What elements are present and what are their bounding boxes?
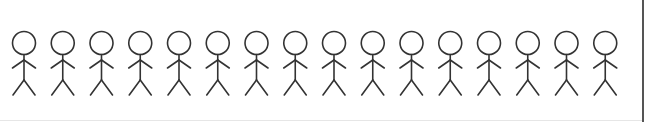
right-arm (373, 60, 385, 68)
head (516, 32, 539, 55)
stick-figure-icon (439, 32, 462, 96)
left-arm (168, 60, 180, 68)
right-arm (412, 60, 424, 68)
right-arm (450, 60, 462, 68)
left-arm (206, 60, 218, 68)
head (361, 32, 384, 55)
left-arm (51, 60, 63, 68)
head (13, 32, 36, 55)
left-arm (400, 60, 412, 68)
stick-figure-icon (555, 32, 578, 96)
right-arm (63, 60, 75, 68)
left-arm (478, 60, 490, 68)
left-arm (361, 60, 373, 68)
right-leg (24, 80, 35, 95)
left-leg (246, 80, 257, 95)
head (478, 32, 501, 55)
head (129, 32, 152, 55)
left-arm (284, 60, 296, 68)
head (439, 32, 462, 55)
right-arm (295, 60, 307, 68)
right-arm (140, 60, 152, 68)
panel-bottom-border (0, 120, 642, 121)
right-leg (412, 80, 423, 95)
left-leg (13, 80, 24, 95)
right-leg (528, 80, 539, 95)
head (284, 32, 307, 55)
right-leg (218, 80, 229, 95)
left-leg (478, 80, 489, 95)
head (245, 32, 268, 55)
left-arm (555, 60, 567, 68)
head (323, 32, 346, 55)
right-arm (489, 60, 501, 68)
left-leg (284, 80, 295, 95)
stick-figure-row (0, 0, 651, 122)
left-arm (245, 60, 257, 68)
stick-figure-icon (129, 32, 152, 96)
head (51, 32, 74, 55)
left-arm (90, 60, 102, 68)
left-arm (323, 60, 335, 68)
left-leg (594, 80, 605, 95)
right-leg (489, 80, 500, 95)
right-arm (334, 60, 346, 68)
stick-figure-icon (284, 32, 307, 96)
left-leg (52, 80, 63, 95)
left-arm (439, 60, 451, 68)
head (168, 32, 191, 55)
stick-figure-icon (516, 32, 539, 96)
right-arm (102, 60, 114, 68)
stick-figure-icon (478, 32, 501, 96)
stick-figure-icon (51, 32, 74, 96)
left-arm (516, 60, 528, 68)
head (206, 32, 229, 55)
stick-figure-icon (594, 32, 617, 96)
left-arm (129, 60, 141, 68)
left-leg (439, 80, 450, 95)
right-arm (257, 60, 269, 68)
left-leg (91, 80, 102, 95)
head (90, 32, 113, 55)
right-leg (140, 80, 151, 95)
head (400, 32, 423, 55)
right-leg (102, 80, 113, 95)
stick-figure-icon (361, 32, 384, 96)
right-leg (257, 80, 268, 95)
left-leg (323, 80, 334, 95)
head (594, 32, 617, 55)
right-arm (218, 60, 230, 68)
left-leg (517, 80, 528, 95)
stick-figure-icon (400, 32, 423, 96)
stick-figure-icon (90, 32, 113, 96)
panel-right-border (642, 0, 644, 122)
right-leg (179, 80, 190, 95)
left-arm (13, 60, 25, 68)
stick-figure-icon (323, 32, 346, 96)
stick-figure-icon (206, 32, 229, 96)
right-arm (528, 60, 540, 68)
right-leg (63, 80, 74, 95)
left-leg (168, 80, 179, 95)
left-leg (401, 80, 412, 95)
right-arm (24, 60, 36, 68)
right-leg (295, 80, 306, 95)
left-arm (594, 60, 606, 68)
stick-figure-icon (13, 32, 36, 96)
left-leg (207, 80, 218, 95)
left-leg (362, 80, 373, 95)
stick-figure-icon (245, 32, 268, 96)
right-leg (334, 80, 345, 95)
head (555, 32, 578, 55)
right-arm (567, 60, 579, 68)
right-leg (567, 80, 578, 95)
right-leg (450, 80, 461, 95)
left-leg (556, 80, 567, 95)
left-leg (129, 80, 140, 95)
right-arm (605, 60, 617, 68)
right-arm (179, 60, 191, 68)
stick-figure-icon (168, 32, 191, 96)
right-leg (373, 80, 384, 95)
right-leg (605, 80, 616, 95)
